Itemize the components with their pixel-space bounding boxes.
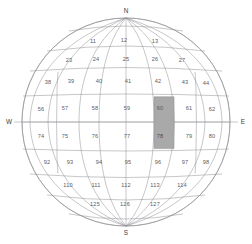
cell-label-74[interactable]: 74: [38, 133, 45, 139]
cell-label-94[interactable]: 94: [96, 159, 103, 165]
cell-label-42[interactable]: 42: [155, 78, 162, 84]
cell-label-110[interactable]: 110: [63, 182, 73, 188]
cell-label-80[interactable]: 80: [209, 133, 216, 139]
cell-label-76[interactable]: 76: [92, 133, 99, 139]
cell-label-26[interactable]: 26: [152, 56, 159, 62]
cell-label-59[interactable]: 59: [124, 105, 131, 111]
cell-label-112[interactable]: 112: [121, 182, 131, 188]
cell-label-24[interactable]: 24: [93, 56, 100, 62]
cell-label-75[interactable]: 75: [62, 133, 69, 139]
cell-label-78[interactable]: 78: [157, 133, 164, 139]
cell-label-92[interactable]: 92: [44, 159, 51, 165]
cell-label-23[interactable]: 23: [66, 57, 73, 63]
cell-label-27[interactable]: 27: [179, 57, 186, 63]
cell-label-43[interactable]: 43: [182, 79, 189, 85]
cell-label-79[interactable]: 79: [186, 133, 193, 139]
cell-label-77[interactable]: 77: [124, 133, 131, 139]
cell-label-40[interactable]: 40: [96, 78, 103, 84]
cell-label-127[interactable]: 127: [150, 201, 160, 207]
cell-label-126[interactable]: 126: [120, 201, 130, 207]
cell-label-57[interactable]: 57: [62, 105, 69, 111]
cell-label-11[interactable]: 11: [90, 38, 96, 44]
cell-label-61[interactable]: 61: [186, 105, 193, 111]
cell-label-56[interactable]: 56: [38, 106, 45, 112]
cell-label-60[interactable]: 60: [157, 105, 164, 111]
cell-label-44[interactable]: 44: [203, 80, 210, 86]
cell-label-95[interactable]: 95: [125, 159, 132, 165]
cell-label-38[interactable]: 38: [45, 79, 52, 85]
cell-label-114[interactable]: 114: [177, 182, 187, 188]
cell-label-12[interactable]: 12: [121, 37, 128, 43]
cell-label-13[interactable]: 13: [152, 38, 159, 44]
cell-label-113[interactable]: 113: [150, 182, 160, 188]
cell-label-96[interactable]: 96: [155, 159, 162, 165]
cell-label-125[interactable]: 125: [90, 201, 100, 207]
compass-label-east: E: [241, 118, 245, 125]
cell-label-93[interactable]: 93: [67, 159, 74, 165]
cell-label-25[interactable]: 25: [123, 56, 130, 62]
compass-label-north: N: [124, 7, 129, 14]
compass-label-south: S: [124, 229, 128, 236]
compass-label-west: W: [6, 118, 13, 125]
cell-label-97[interactable]: 97: [182, 159, 189, 165]
cell-label-111[interactable]: 111: [91, 182, 100, 188]
globe-grid-figure: 1112132324252627383940414243445657585960…: [0, 0, 252, 244]
cell-label-98[interactable]: 98: [203, 159, 210, 165]
globe-projection-svg[interactable]: 1112132324252627383940414243445657585960…: [0, 0, 252, 244]
cell-label-41[interactable]: 41: [125, 78, 132, 84]
cell-label-58[interactable]: 58: [92, 105, 99, 111]
cell-label-39[interactable]: 39: [68, 78, 75, 84]
cell-label-62[interactable]: 62: [209, 106, 216, 112]
